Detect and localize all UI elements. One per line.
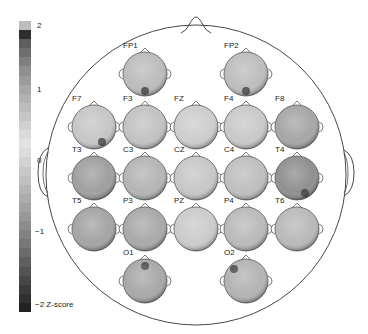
mini-left-ear-icon [119,224,123,234]
mini-left-ear-icon [68,122,72,132]
electrode-map-cz [170,152,222,200]
electrode-map-p3 [119,203,171,251]
mini-head-shading [123,156,167,200]
mini-head-shading [72,105,116,149]
mini-head-shading [174,207,218,251]
colorbar-tick-label: −1 [35,228,44,236]
electrode-map-fp2 [220,48,272,96]
mini-left-ear-icon [68,173,72,183]
mini-head-shading [123,105,167,149]
electrode-map-fp1 [119,48,171,96]
electrode-map-p4 [220,203,272,251]
electrode-map-t5 [68,203,120,251]
mini-head-shading [174,105,218,149]
mini-left-ear-icon [119,122,123,132]
electrode-label: F4 [224,95,233,103]
mini-head-shading [224,105,268,149]
electrode-label: FP1 [123,42,138,50]
mini-left-ear-icon [68,224,72,234]
mini-head-shading [174,156,218,200]
scalp-diagram [0,0,368,334]
electrode-label: O2 [224,249,235,257]
mini-left-ear-icon [271,224,275,234]
electrode-label: P3 [123,197,133,205]
mini-right-ear-icon [167,276,171,286]
electrode-map-f8 [271,101,323,149]
mini-left-ear-icon [119,276,123,286]
mini-head-shading [72,207,116,251]
mini-right-ear-icon [167,69,171,79]
electrode-label: CZ [174,146,185,154]
electrode-map-f7 [68,101,120,149]
electrode-map-fz [170,101,222,149]
electrode-label: T4 [275,146,284,154]
electrode-label: C3 [123,146,133,154]
colorbar-segment [19,303,31,313]
electrode-map-o2 [220,255,272,303]
colorbar-tick-label: 0 [37,157,41,165]
mini-head-shading [224,207,268,251]
electrode-label: T5 [72,197,81,205]
electrode-map-c3 [119,152,171,200]
mini-left-ear-icon [220,276,224,286]
mini-left-ear-icon [271,122,275,132]
electrode-label: F3 [123,95,132,103]
electrode-label: T6 [275,197,284,205]
electrode-label: F7 [72,95,81,103]
mini-head-shading [275,156,319,200]
electrode-label: FP2 [224,42,239,50]
mini-head-shading [275,207,319,251]
mini-right-ear-icon [319,122,323,132]
mini-left-ear-icon [170,122,174,132]
colorbar-tick-label: 2 [37,22,41,30]
mini-head-shading [224,259,268,303]
mini-left-ear-icon [119,69,123,79]
electrode-label: C4 [224,146,234,154]
colorbar [19,21,31,312]
mini-head-shading [123,259,167,303]
electrode-label: P4 [224,197,234,205]
electrode-maps [68,48,323,303]
electrode-label: F8 [275,95,284,103]
mini-right-ear-icon [319,173,323,183]
mini-head-shading [275,105,319,149]
mini-left-ear-icon [170,224,174,234]
mini-right-ear-icon [268,69,272,79]
colorbar-tick-label: −2 Z-score [35,301,73,309]
electrode-map-o1 [119,255,171,303]
eeg-topography-figure: 210−1−2 Z-score FP1FP2F7F3FZF4F8T3C3CZC4… [0,0,368,334]
mini-head-shading [224,156,268,200]
electrode-label: PZ [174,197,184,205]
mini-right-ear-icon [268,276,272,286]
mini-left-ear-icon [170,173,174,183]
colorbar-tick-label: 1 [37,86,41,94]
electrode-map-c4 [220,152,272,200]
mini-head-shading [72,156,116,200]
electrode-map-t3 [68,152,120,200]
mini-left-ear-icon [119,173,123,183]
electrode-map-pz [170,203,222,251]
electrode-map-f4 [220,101,272,149]
electrode-label: O1 [123,249,134,257]
electrode-map-f3 [119,101,171,149]
mini-right-ear-icon [319,224,323,234]
electrode-map-t4 [271,152,323,200]
electrode-label: FZ [174,95,184,103]
mini-left-ear-icon [271,173,275,183]
mini-head-shading [123,207,167,251]
mini-head-shading [123,52,167,96]
electrode-label: T3 [72,146,81,154]
electrode-map-t6 [271,203,323,251]
mini-left-ear-icon [220,69,224,79]
mini-head-shading [224,52,268,96]
